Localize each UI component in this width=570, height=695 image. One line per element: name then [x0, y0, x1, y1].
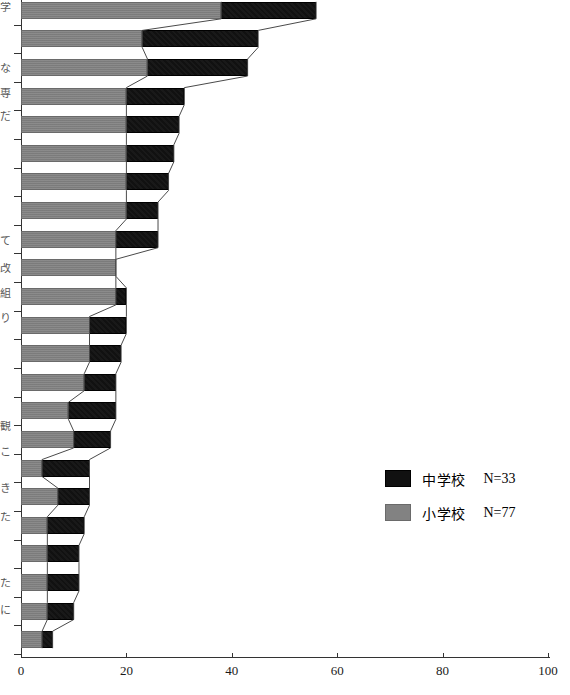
- y-axis-tick: [14, 368, 21, 369]
- bar-row: [21, 345, 549, 362]
- bar-row: [21, 59, 549, 76]
- y-axis-tick: [14, 139, 21, 140]
- legend-item-chugakko: 中学校 N=33: [385, 466, 516, 491]
- x-axis-tick-label: 0: [18, 663, 25, 679]
- plot-area: 020406080100: [21, 0, 549, 658]
- bar-segment-shogakko: [21, 345, 90, 362]
- legend-swatch-gray: [385, 504, 411, 521]
- y-axis-tick: [14, 196, 21, 197]
- y-axis-tick: [14, 53, 21, 54]
- legend-label-chugakko: 中学校: [422, 469, 466, 489]
- x-axis-tick-label: 40: [225, 663, 238, 679]
- legend-item-shogakko: 小学校 N=77: [385, 500, 516, 525]
- y-axis-tick: [14, 654, 21, 655]
- bar-segment-shogakko: [21, 460, 42, 477]
- cut-off-label: 専: [0, 88, 19, 99]
- y-axis-tick: [14, 225, 21, 226]
- x-axis-tick-label: 80: [436, 663, 449, 679]
- legend-count-chugakko: N=33: [484, 471, 516, 487]
- x-axis-tick: [443, 653, 444, 658]
- bar-row: [21, 259, 549, 276]
- stacked-horizontal-bar-chart: 学な専だて改組り観こきたたに 020406080100 中学校 N=33 小学校…: [0, 0, 570, 695]
- bar-segment-shogakko: [21, 288, 116, 305]
- bar-segment-shogakko: [21, 59, 147, 76]
- chart-legend: 中学校 N=33 小学校 N=77: [385, 466, 516, 534]
- bar-segment-shogakko: [21, 374, 84, 391]
- cut-off-label: だ: [0, 111, 19, 122]
- bar-row: [21, 545, 549, 562]
- x-axis-tick: [126, 653, 127, 658]
- y-axis-tick: [14, 540, 21, 541]
- legend-label-shogakko: 小学校: [422, 503, 466, 523]
- bar-row: [21, 202, 549, 219]
- bar-row: [21, 631, 549, 648]
- bar-segment-shogakko: [21, 517, 47, 534]
- bar-row: [21, 603, 549, 620]
- cut-off-label: 改: [0, 263, 19, 274]
- bar-row: [21, 88, 549, 105]
- bar-segment-shogakko: [21, 431, 74, 448]
- bar-segment-shogakko: [21, 488, 58, 505]
- bar-row: [21, 288, 549, 305]
- bar-row: [21, 574, 549, 591]
- x-axis-tick: [21, 653, 22, 658]
- cut-off-category-labels: 学な専だて改組り観こきたたに: [0, 0, 21, 658]
- cut-off-label: り: [0, 313, 19, 324]
- bar-segment-shogakko: [21, 173, 126, 190]
- x-axis-tick: [548, 653, 549, 658]
- cut-off-label: 組: [0, 288, 19, 299]
- bar-segment-shogakko: [21, 631, 42, 648]
- bar-segment-shogakko: [21, 259, 116, 276]
- bar-row: [21, 317, 549, 334]
- bar-segment-shogakko: [21, 402, 68, 419]
- y-axis-tick: [14, 282, 21, 283]
- bar-segment-shogakko: [21, 574, 47, 591]
- bar-row: [21, 2, 549, 19]
- y-axis-tick: [14, 311, 21, 312]
- cut-off-label: き: [0, 483, 19, 494]
- x-axis-tick-label: 20: [120, 663, 133, 679]
- bar-segment-shogakko: [21, 2, 221, 19]
- x-axis-line: [21, 657, 550, 658]
- y-axis-tick: [14, 568, 21, 569]
- legend-count-shogakko: N=77: [484, 505, 516, 521]
- y-axis-tick: [14, 425, 21, 426]
- bar-segment-shogakko: [21, 116, 126, 133]
- y-axis-tick: [14, 511, 21, 512]
- y-axis-tick: [14, 454, 21, 455]
- bar-row: [21, 402, 549, 419]
- x-axis-tick-label: 60: [331, 663, 344, 679]
- bar-segment-shogakko: [21, 231, 116, 248]
- bar-row: [21, 374, 549, 391]
- x-axis-tick: [337, 653, 338, 658]
- bar-row: [21, 116, 549, 133]
- cut-off-label: て: [0, 236, 19, 247]
- bar-segment-shogakko: [21, 88, 126, 105]
- y-axis-tick: [14, 110, 21, 111]
- bar-row: [21, 231, 549, 248]
- y-axis-tick: [14, 339, 21, 340]
- y-axis-tick: [14, 625, 21, 626]
- y-axis-tick: [14, 597, 21, 598]
- y-axis-tick: [14, 397, 21, 398]
- cut-off-label: 学: [0, 2, 19, 13]
- bar-segment-shogakko: [21, 545, 47, 562]
- x-axis-tick-label: 100: [538, 663, 558, 679]
- cut-off-label: た: [0, 578, 19, 589]
- y-axis-tick: [14, 168, 21, 169]
- cut-off-label: こ: [0, 447, 19, 458]
- bar-row: [21, 30, 549, 47]
- legend-swatch-black: [385, 470, 411, 487]
- y-axis-tick: [14, 82, 21, 83]
- y-axis-tick: [14, 482, 21, 483]
- bar-segment-shogakko: [21, 30, 142, 47]
- bar-segment-shogakko: [21, 145, 126, 162]
- y-axis-tick: [14, 253, 21, 254]
- bar-row: [21, 173, 549, 190]
- y-axis-tick: [14, 25, 21, 26]
- cut-off-label: な: [0, 63, 19, 74]
- bar-row: [21, 431, 549, 448]
- bar-row: [21, 145, 549, 162]
- bar-segment-shogakko: [21, 202, 126, 219]
- x-axis-tick: [232, 653, 233, 658]
